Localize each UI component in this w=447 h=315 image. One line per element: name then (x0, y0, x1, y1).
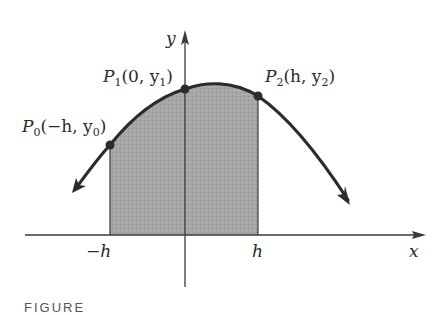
y-axis-label: y (165, 28, 176, 48)
point-p0-marker (106, 141, 115, 150)
x-axis-label: x (409, 241, 419, 261)
label-p1: P1(0, y1) (102, 66, 173, 89)
x-axis-arrow-icon (412, 231, 426, 239)
left-curve-arrow-icon (72, 178, 86, 193)
label-p2: P2(h, y2) (264, 66, 335, 89)
label-p0: P0(−h, y0) (21, 116, 106, 139)
point-p1-marker (181, 85, 190, 94)
point-p2-marker (254, 92, 263, 101)
tick-label-h: h (252, 241, 263, 261)
shaded-area (110, 84, 258, 235)
tick-label-neg-h: −h (86, 241, 111, 261)
figure-caption: FIGURE (24, 300, 85, 315)
